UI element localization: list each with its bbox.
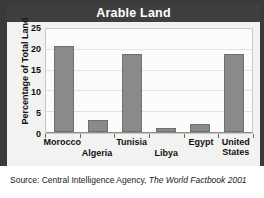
chart-body: Percentage of Total Land 0510152025 Moro… <box>7 22 260 162</box>
bar-morocco <box>54 46 73 132</box>
arable-land-figure: Arable Land Percentage of Total Land 051… <box>0 0 264 198</box>
x-tick-label: Libya <box>133 148 199 158</box>
x-axis-tick-labels: MoroccoAlgeriaTunisiaLibyaEgyptUnitedSta… <box>45 137 253 162</box>
plot-area <box>45 28 253 134</box>
x-tick-label: Morocco <box>29 137 95 147</box>
y-tick-label: 25 <box>31 24 41 33</box>
axis-baseline <box>46 132 252 133</box>
bar-united-states <box>224 54 243 132</box>
plot-area-wrapper: 0510152025 <box>45 28 253 134</box>
source-publication: The World Factbook 2001 <box>149 175 247 185</box>
chart-title-bar: Arable Land <box>7 4 260 22</box>
bar-egypt <box>190 124 209 132</box>
source-prefix: Source: Central Intelligence Agency, <box>10 175 146 185</box>
chart-title: Arable Land <box>96 7 170 20</box>
y-axis-label: Percentage of Total Land <box>20 12 30 130</box>
x-tick-label: UnitedStates <box>203 137 264 157</box>
bar-slot <box>81 30 115 132</box>
y-tick-label: 5 <box>36 108 41 117</box>
y-tick-label: 10 <box>31 87 41 96</box>
bar-slot <box>217 30 251 132</box>
x-tick-label-line: United <box>222 137 250 147</box>
bar-slot <box>47 30 81 132</box>
y-tick-label: 20 <box>31 45 41 54</box>
bar-series <box>47 30 251 132</box>
x-tick-label-line: States <box>203 147 264 157</box>
gridline <box>46 28 252 29</box>
bar-algeria <box>88 120 107 132</box>
x-tick-label: Tunisia <box>99 137 165 147</box>
bar-slot <box>183 30 217 132</box>
x-tick-label-line: Algeria <box>82 148 113 158</box>
x-tick-label-line: Morocco <box>44 137 82 147</box>
x-tick-label: Algeria <box>64 148 130 158</box>
bar-slot <box>115 30 149 132</box>
x-tick-label-line: Tunisia <box>116 137 147 147</box>
x-tick-label-line: Libya <box>155 148 179 158</box>
bar-slot <box>149 30 183 132</box>
bar-tunisia <box>122 54 141 132</box>
y-tick-label: 15 <box>31 66 41 75</box>
source-note: Source: Central Intelligence Agency, The… <box>10 175 247 185</box>
